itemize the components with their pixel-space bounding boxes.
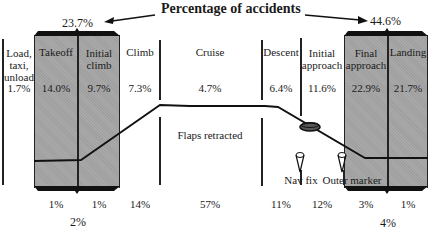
time-pct-climb: 14% xyxy=(120,198,160,210)
time-pct-cruise: 57% xyxy=(160,198,260,210)
departure-time-total: 2% xyxy=(70,215,86,230)
flaps-retracted-label: Flaps retracted xyxy=(160,130,260,141)
accidents-pct-cruise: 4.7% xyxy=(160,82,260,94)
chart-title: Percentage of accidents xyxy=(161,1,301,17)
time-pct-final-approach: 3% xyxy=(344,198,388,210)
phase-label-final-approach: Final approach xyxy=(344,47,388,71)
accidents-pct-initial-climb: 9.7% xyxy=(78,82,120,94)
phase-label-initial-climb: Initial climb xyxy=(78,47,120,71)
time-pct-initial-climb: 1% xyxy=(78,198,120,210)
accidents-pct-climb: 7.3% xyxy=(120,82,160,94)
accidents-pct-final-approach: 22.9% xyxy=(344,82,388,94)
accidents-pct-load: 1.7% xyxy=(2,82,36,94)
time-pct-landing: 1% xyxy=(388,198,428,210)
phase-label-climb: Climb xyxy=(120,47,160,58)
accidents-pct-landing: 21.7% xyxy=(388,82,428,94)
accidents-pct-initial-approach: 11.6% xyxy=(300,82,344,94)
phase-label-takeoff: Takeoff xyxy=(34,47,78,58)
accidents-pct-takeoff: 14.0% xyxy=(34,82,78,94)
phase-label-descent: Descent xyxy=(261,47,301,58)
phase-label-landing: Landing xyxy=(388,47,428,58)
time-pct-takeoff: 1% xyxy=(34,198,78,210)
departure-accidents-total: 23.7% xyxy=(62,16,93,31)
phase-label-cruise: Cruise xyxy=(160,47,260,58)
accidents-pct-descent: 6.4% xyxy=(261,82,301,94)
time-pct-descent: 11% xyxy=(261,198,301,210)
time-pct-initial-approach: 12% xyxy=(300,198,344,210)
arrival-accidents-total: 44.6% xyxy=(370,14,401,29)
phase-label-load: Load, taxi, unload xyxy=(2,47,36,83)
outer-marker-label: Outer marker xyxy=(322,175,382,186)
phase-label-initial-approach: Initial approach xyxy=(300,47,344,71)
arrival-time-total: 4% xyxy=(380,216,396,231)
nav-fix-label: Nav fix xyxy=(283,175,319,186)
